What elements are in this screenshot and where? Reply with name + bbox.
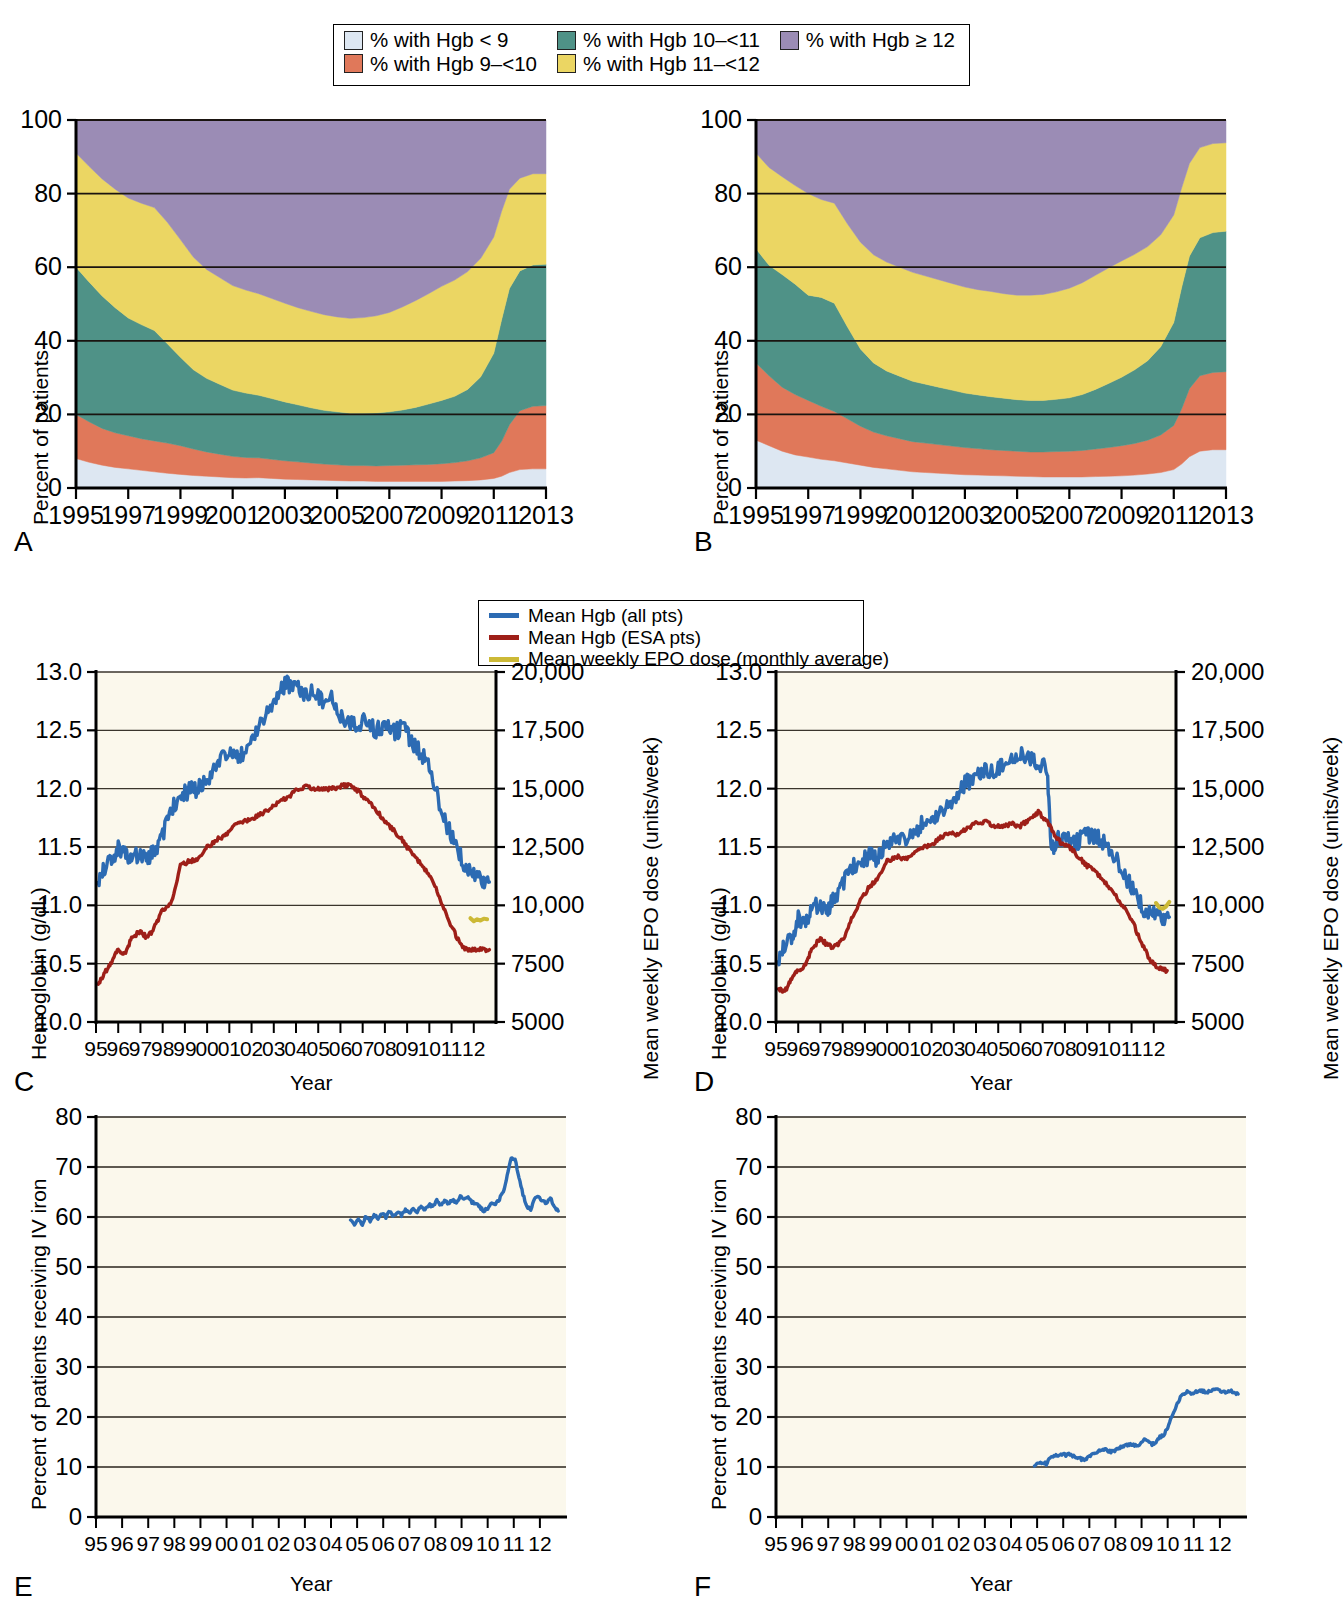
x-tick-label: 06	[1009, 1037, 1032, 1060]
chart-E: 0102030405060708095969798990001020304050…	[0, 1105, 660, 1605]
y-tick-label: 40	[55, 1303, 82, 1330]
line-series-2	[470, 918, 487, 921]
legend-item-hgb-ge12: % with Hgb ≥ 12	[780, 30, 959, 51]
panel-f: Percent of patients receiving IV iron 01…	[680, 1105, 1340, 1605]
y-tick-label: 60	[714, 252, 742, 280]
chart-A: 0204060801001995199719992001200320052007…	[0, 110, 660, 550]
x-tick-label: 2001	[885, 501, 941, 529]
y-tick-label: 60	[735, 1203, 762, 1230]
x-tick-label: 2005	[989, 501, 1045, 529]
y-tick-label: 40	[735, 1303, 762, 1330]
x-tick-label: 2007	[1042, 501, 1098, 529]
x-tick-label: 1995	[728, 501, 784, 529]
x-tick-label: 2001	[205, 501, 261, 529]
y-tick-label-right: 12,500	[1191, 833, 1264, 860]
y-tick-label: 50	[735, 1253, 762, 1280]
x-tick-label: 03	[293, 1532, 316, 1555]
x-tick-label: 2011	[467, 501, 521, 529]
chart-D: 10.010.511.011.512.012.513.05000750010,0…	[680, 660, 1340, 1100]
y-tick-label: 20	[735, 1403, 762, 1430]
x-tick-label: 1997	[780, 501, 836, 529]
x-tick-label: 09	[450, 1532, 473, 1555]
x-tick-label: 99	[189, 1532, 212, 1555]
x-tick-label: 08	[373, 1037, 396, 1060]
x-tick-label: 09	[1130, 1532, 1153, 1555]
legend-hgb-categories: % with Hgb < 9 % with Hgb 10–<11 % with …	[333, 24, 970, 86]
x-tick-label: 96	[110, 1532, 133, 1555]
x-tick-label: 02	[947, 1532, 970, 1555]
x-tick-label: 12	[1142, 1037, 1165, 1060]
y-tick-label-right: 5000	[511, 1008, 564, 1035]
x-tick-label: 1997	[100, 501, 156, 529]
y-tick-label: 60	[55, 1203, 82, 1230]
x-tick-label: 00	[895, 1532, 918, 1555]
x-tick-label: 97	[817, 1532, 840, 1555]
x-tick-label: 10	[1098, 1037, 1121, 1060]
x-tick-label: 11	[503, 1532, 525, 1555]
x-tick-label: 2009	[414, 501, 470, 529]
legend-label-hgb-9-10: % with Hgb 9–<10	[370, 54, 537, 75]
y-tick-label: 70	[55, 1153, 82, 1180]
x-tick-label: 04	[319, 1532, 343, 1555]
x-tick-label: 2005	[309, 501, 365, 529]
x-tick-label: 96	[790, 1532, 813, 1555]
y-tick-label: 70	[735, 1153, 762, 1180]
y-tick-label-right: 20,000	[511, 660, 584, 685]
x-tick-label: 08	[424, 1532, 447, 1555]
y-tick-label-right: 17,500	[1191, 716, 1264, 743]
legend-hgb-epo-lines: Mean Hgb (all pts) Mean Hgb (ESA pts) Me…	[478, 600, 864, 666]
panel-c-xlabel: Year	[290, 1072, 332, 1093]
x-tick-label: 95	[764, 1037, 787, 1060]
y-tick-label-left: 12.0	[35, 775, 82, 802]
panel-d-xlabel: Year	[970, 1072, 1012, 1093]
x-tick-label: 1995	[48, 501, 104, 529]
x-tick-label: 2007	[362, 501, 418, 529]
x-tick-label: 03	[973, 1532, 996, 1555]
x-tick-label: 00	[875, 1037, 898, 1060]
legend-swatch-hgb-10-11	[557, 31, 576, 50]
panel-d-ylabel-right: Mean weekly EPO dose (units/week)	[1320, 737, 1341, 1080]
legend-line-mean-hgb-all	[489, 613, 519, 618]
x-tick-label: 12	[462, 1037, 485, 1060]
y-tick-label: 0	[749, 1503, 762, 1530]
y-tick-label-right: 20,000	[1191, 660, 1264, 685]
x-tick-label: 2013	[518, 501, 574, 529]
y-tick-label-right: 15,000	[1191, 775, 1264, 802]
y-tick-label: 30	[735, 1353, 762, 1380]
x-tick-label: 05	[307, 1037, 330, 1060]
panel-a-letter: A	[14, 528, 33, 556]
x-tick-label: 95	[84, 1532, 107, 1555]
x-tick-label: 11	[1183, 1532, 1205, 1555]
x-tick-label: 2011	[1147, 501, 1201, 529]
x-tick-label: 99	[853, 1037, 876, 1060]
chart-B: 0204060801001995199719992001200320052007…	[680, 110, 1340, 550]
legend-label-hgb-10-11: % with Hgb 10–<11	[583, 30, 760, 51]
panel-f-letter: F	[694, 1573, 711, 1601]
y-tick-label: 80	[714, 179, 742, 207]
x-tick-label: 05	[987, 1037, 1010, 1060]
y-tick-label-right: 7500	[1191, 950, 1244, 977]
y-tick-label: 30	[55, 1353, 82, 1380]
x-tick-label: 07	[1031, 1037, 1054, 1060]
y-tick-label: 10	[55, 1453, 82, 1480]
x-tick-label: 95	[84, 1037, 107, 1060]
panel-f-xlabel: Year	[970, 1573, 1012, 1594]
legend-line-mean-hgb-esa	[489, 635, 519, 640]
y-tick-label: 100	[20, 110, 62, 133]
y-tick-label-left: 12.5	[35, 716, 82, 743]
x-tick-label: 04	[284, 1037, 308, 1060]
x-tick-label: 98	[843, 1532, 866, 1555]
panel-a-ylabel: Percent of patients	[30, 350, 51, 525]
x-tick-label: 98	[163, 1532, 186, 1555]
panel-f-ylabel: Percent of patients receiving IV iron	[708, 1178, 729, 1510]
x-tick-label: 11	[441, 1037, 463, 1060]
y-tick-label-left: 12.0	[715, 775, 762, 802]
y-tick-label-left: 11.5	[37, 833, 82, 860]
x-tick-label: 08	[1104, 1532, 1127, 1555]
x-tick-label: 05	[1025, 1532, 1048, 1555]
x-tick-label: 10	[476, 1532, 499, 1555]
y-tick-label: 10	[735, 1453, 762, 1480]
y-tick-label-left: 12.5	[715, 716, 762, 743]
figure-root: % with Hgb < 9 % with Hgb 10–<11 % with …	[0, 0, 1343, 1624]
x-tick-label: 10	[418, 1037, 441, 1060]
